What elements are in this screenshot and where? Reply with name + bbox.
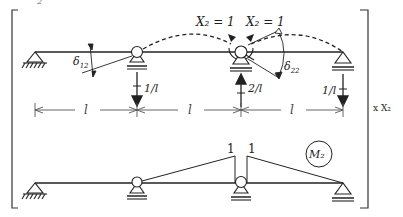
central-hinge-bottom: [231, 177, 251, 201]
moment-arrow-right-icon: [246, 34, 254, 42]
roller-support-right-bottom: [332, 183, 354, 201]
left-bracket: [12, 10, 18, 208]
fragment-text: 2: [36, 0, 42, 6]
roller-support-right: [332, 52, 354, 70]
structural-diagram: 2 δ12 1/l: [0, 0, 403, 217]
span-label-3: l: [290, 103, 294, 117]
pin-support-left-bottom: [22, 183, 47, 199]
moment-value-right: 1: [248, 142, 256, 156]
reaction-arrow-right: [338, 74, 348, 106]
central-hinge-with-moments: [229, 46, 254, 71]
deflection-curve-left: [143, 34, 231, 49]
reaction-arrow-left: [132, 72, 142, 106]
pin-support-left: [22, 52, 47, 68]
moment-diagram-label: M₂: [308, 148, 325, 161]
moment-label-left: X₂ = 1: [195, 15, 235, 29]
reaction-left-label: 1/l: [144, 82, 159, 95]
moment-label-right: X₂ = 1: [245, 15, 285, 29]
reaction-right-label: 1/l: [322, 84, 337, 97]
reaction-arrow-mid: [236, 74, 246, 107]
multiplier-label: x X₂: [373, 103, 391, 113]
delta22-label: δ22: [284, 60, 300, 75]
moment-arrow-left-icon: [228, 34, 236, 42]
roller-hinge-1: [127, 47, 147, 70]
reaction-mid-label: 2/l: [247, 82, 263, 95]
span-label-2: l: [188, 103, 192, 117]
delta12-label: δ12: [73, 55, 89, 70]
span-label-1: l: [84, 103, 88, 117]
right-bracket: [360, 10, 368, 208]
moment-value-left: 1: [227, 142, 235, 156]
delta12-rotation: [82, 44, 132, 77]
